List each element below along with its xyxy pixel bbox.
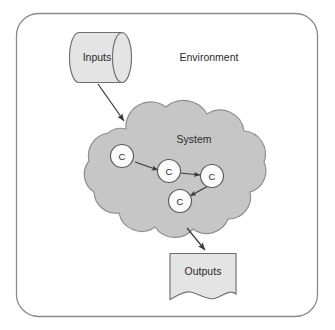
outputs-shape: Outputs bbox=[170, 254, 236, 300]
inputs-shape: Inputs bbox=[70, 33, 132, 83]
node-c4: C bbox=[169, 190, 192, 213]
block-diagram: Environment System C C C C bbox=[0, 0, 335, 330]
node-c3: C bbox=[201, 165, 224, 188]
inputs-label: Inputs bbox=[83, 51, 112, 63]
outputs-label: Outputs bbox=[185, 265, 222, 277]
system-label: System bbox=[176, 133, 211, 145]
node-c1-label: C bbox=[119, 151, 126, 162]
diagram-canvas: Environment System C C C C bbox=[0, 0, 335, 330]
environment-label: Environment bbox=[180, 51, 239, 63]
node-c4-label: C bbox=[177, 196, 184, 207]
node-c2: C bbox=[158, 160, 181, 183]
node-c3-label: C bbox=[209, 171, 216, 182]
node-c1: C bbox=[111, 145, 134, 168]
node-c2-label: C bbox=[166, 166, 173, 177]
